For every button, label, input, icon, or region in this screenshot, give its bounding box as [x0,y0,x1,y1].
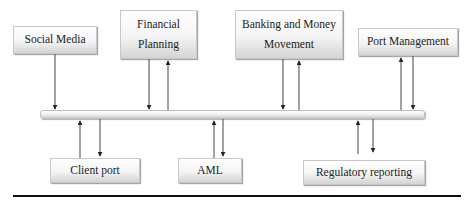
bottom-rule [13,195,461,197]
connection-arrows [0,0,470,203]
